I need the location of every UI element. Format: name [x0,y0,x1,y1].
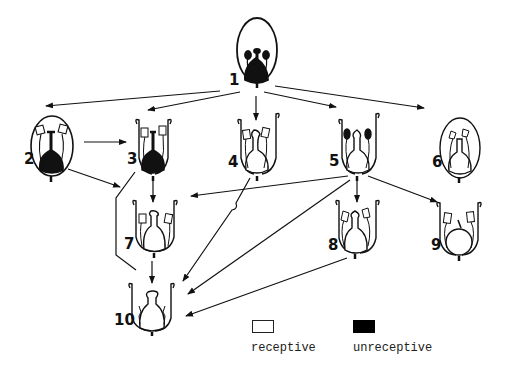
edge-2-7 [68,169,120,187]
diagram-canvas [0,0,508,371]
flower-stage-3 [136,120,171,182]
stage-label-7: 7 [124,237,134,252]
legend-label-receptive: receptive [251,341,316,355]
stage-label-1: 1 [229,73,239,88]
legend-label-unreceptive: unreceptive [353,341,432,355]
stage-label-8: 8 [328,238,338,253]
edge-1-6 [275,86,424,108]
stage-label-2: 2 [24,152,34,167]
stage-label-4: 4 [228,155,238,170]
flower-stage-8 [336,201,379,260]
legend-swatch-unreceptive [353,320,375,333]
flower-stage-7 [133,201,177,259]
flower-stage-4 [238,114,279,182]
edge-5-9 [368,176,437,202]
stage-label-10: 10 [114,313,135,328]
edge-1-2 [46,91,220,106]
edge-8-10 [186,258,347,316]
stage-label-6: 6 [432,155,442,170]
stage-label-5: 5 [329,154,339,169]
stage-label-3: 3 [127,152,137,167]
flower-stage-6 [440,118,480,183]
flower-stage-10 [129,284,174,337]
flower-stage-2 [31,116,73,182]
edge-1-5 [264,92,336,107]
edge-1-3 [148,92,240,110]
edge-4-10 [183,178,250,281]
stage-label-9: 9 [431,238,441,253]
flower-stage-9 [437,203,481,262]
edge-5-7 [191,176,348,196]
flower-stage-5 [339,114,379,182]
flower-stage-1 [237,18,277,88]
edge-5-10 [188,180,350,294]
legend-swatch-receptive [252,320,274,333]
